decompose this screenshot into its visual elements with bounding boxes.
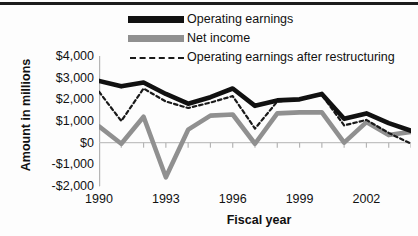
chart-container: Operating earnings Net income Operating … xyxy=(0,0,418,236)
legend-item-net-income: Net income xyxy=(128,31,395,46)
x-axis-tick-label: 2002 xyxy=(353,192,381,206)
y-axis-tick-label: $2,000 xyxy=(28,93,94,105)
x-axis-tick-label: 1990 xyxy=(85,192,113,206)
chart-svg xyxy=(99,56,411,196)
y-axis-tick-label: $1,000 xyxy=(28,115,94,127)
y-axis-tick-label: $3,000 xyxy=(28,72,94,84)
y-axis-tick-label: -$2,000 xyxy=(28,180,94,192)
y-axis-tick-label: $4,000 xyxy=(28,50,94,62)
plot-area xyxy=(99,56,411,186)
legend-label: Net income xyxy=(187,31,250,46)
x-axis-tick-label: 1996 xyxy=(219,192,247,206)
y-axis-tick-label: -$1,000 xyxy=(28,158,94,170)
x-axis-title: Fiscal year xyxy=(100,213,418,227)
series-line xyxy=(99,112,411,177)
line-swatch-icon xyxy=(128,16,184,23)
y-axis-tick-label: $0 xyxy=(28,137,94,149)
legend-label: Operating earnings xyxy=(187,12,293,27)
x-axis-tick-label: 1993 xyxy=(152,192,180,206)
legend-item-operating-earnings: Operating earnings xyxy=(128,12,395,27)
line-swatch-icon xyxy=(128,35,184,42)
x-axis-tick-label: 1999 xyxy=(286,192,314,206)
x-axis-tick-labels: 19901993199619992002 xyxy=(0,192,418,210)
